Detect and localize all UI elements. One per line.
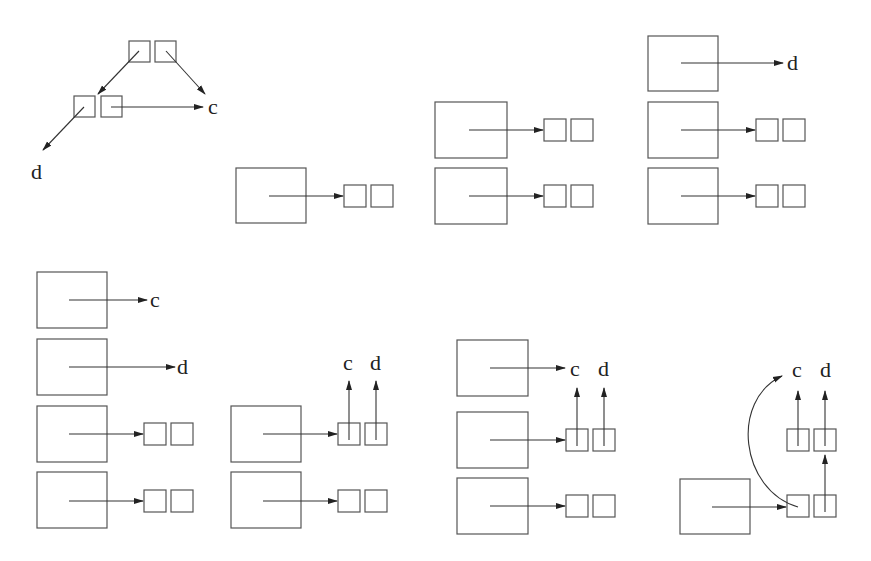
label-d: d: [31, 159, 42, 184]
panel-3: [435, 102, 593, 224]
cell-car: [756, 119, 778, 141]
cell-car: [544, 119, 566, 141]
cell-cdr: [371, 185, 393, 207]
cell-cdr: [783, 185, 805, 207]
panel-5: c d: [37, 272, 193, 528]
cell-car: [144, 423, 166, 445]
label-c: c: [343, 350, 353, 375]
cell-cdr: [593, 495, 615, 517]
cell-cdr: [171, 490, 193, 512]
cell-cdr: [171, 423, 193, 445]
panel-4: d: [648, 36, 805, 224]
pointer-arrow: [98, 51, 139, 94]
cell-car: [544, 185, 566, 207]
label-d: d: [820, 357, 831, 382]
cell-car: [338, 490, 360, 512]
cell-cdr: [783, 119, 805, 141]
label-c: c: [570, 356, 580, 381]
cell-car: [344, 185, 366, 207]
label-d: d: [177, 354, 188, 379]
label-c: c: [150, 287, 160, 312]
panel-6: c d: [231, 350, 387, 528]
cell-car: [144, 490, 166, 512]
panel-7: c d: [457, 340, 615, 534]
label-d: d: [787, 50, 798, 75]
cell-cdr: [365, 490, 387, 512]
cell-car: [566, 495, 588, 517]
label-d: d: [598, 356, 609, 381]
frame-box: [37, 472, 107, 528]
label-c: c: [208, 94, 218, 119]
cell-car: [756, 185, 778, 207]
pointer-arrow: [43, 107, 84, 150]
frame-box: [231, 472, 301, 528]
cell-car: [787, 495, 809, 517]
panel-1-tree: c d: [31, 41, 218, 184]
cell-cdr: [571, 185, 593, 207]
panel-2: [236, 168, 393, 223]
pointer-arrow: [166, 51, 205, 94]
box-pointer-diagram: c d d: [0, 0, 871, 561]
panel-8: c d: [680, 357, 836, 534]
label-c: c: [792, 357, 802, 382]
label-d: d: [370, 350, 381, 375]
cell-cdr: [571, 119, 593, 141]
